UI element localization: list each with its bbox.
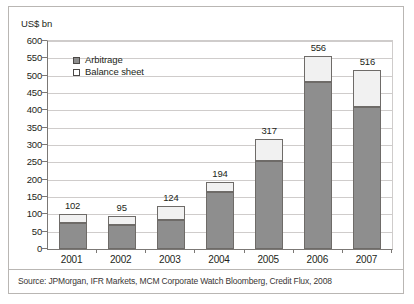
y-axis-tick-mark — [42, 161, 47, 162]
y-axis-tick-label: 550 — [27, 52, 42, 63]
legend-swatch-balance-sheet-icon — [73, 69, 80, 76]
gridline — [48, 93, 392, 94]
y-axis-tick-mark — [42, 196, 47, 197]
x-axis-tick-label: 2002 — [110, 254, 131, 265]
y-axis-tick-mark — [42, 92, 47, 93]
legend-swatch-arbitrage-icon — [73, 57, 80, 64]
bar-segment-balance-sheet[interactable] — [353, 70, 381, 106]
x-axis-tick-label: 2001 — [61, 254, 82, 265]
legend-item-balance-sheet: Balance sheet — [73, 66, 144, 78]
y-axis-tick-label: 150 — [27, 191, 42, 202]
legend-label-balance-sheet: Balance sheet — [85, 66, 144, 78]
y-axis-tick-label: 350 — [27, 121, 42, 132]
x-axis-tick-labels: 2001200220032004200520062007 — [47, 254, 393, 268]
x-axis-tick-mark — [342, 249, 343, 253]
gridline — [48, 110, 392, 111]
x-axis-tick-label: 2007 — [356, 254, 377, 265]
y-axis-tick-mark — [42, 127, 47, 128]
y-axis-tick-mark — [42, 231, 47, 232]
chart-legend: Arbitrage Balance sheet — [73, 54, 144, 78]
bar-total-label: 124 — [163, 192, 178, 203]
gridline — [48, 41, 392, 42]
bar-segment-balance-sheet[interactable] — [206, 182, 234, 192]
y-axis-tick-label: 500 — [27, 69, 42, 80]
x-axis-tick-label: 2003 — [159, 254, 180, 265]
x-axis-tick-label: 2006 — [307, 254, 328, 265]
x-axis-tick-mark — [96, 249, 97, 253]
y-axis-tick-labels: 600550500450400350300250200150100500 — [15, 40, 42, 248]
bar-segment-balance-sheet[interactable] — [108, 216, 136, 225]
bar-segment-balance-sheet[interactable] — [157, 206, 185, 220]
gridline — [48, 162, 392, 163]
bar-segment-arbitrage[interactable] — [255, 161, 283, 249]
bar-segment-arbitrage[interactable] — [353, 107, 381, 249]
y-axis-tick-label: 200 — [27, 173, 42, 184]
y-axis-tick-label: 400 — [27, 104, 42, 115]
x-axis-tick-mark — [194, 249, 195, 253]
source-note: Source: JPMorgan, IFR Markets, MCM Corpo… — [18, 276, 332, 286]
bar-segment-balance-sheet[interactable] — [304, 56, 332, 81]
y-axis-tick-label: 250 — [27, 156, 42, 167]
x-axis-tick-mark — [244, 249, 245, 253]
gridline — [48, 128, 392, 129]
bar-segment-balance-sheet[interactable] — [255, 139, 283, 160]
legend-item-arbitrage: Arbitrage — [73, 54, 144, 66]
bar-segment-arbitrage[interactable] — [157, 220, 185, 249]
y-axis-tick-mark — [42, 179, 47, 180]
bar-segment-arbitrage[interactable] — [304, 82, 332, 249]
bar-total-label: 516 — [360, 56, 375, 67]
y-axis-tick-mark — [42, 213, 47, 214]
bar-total-label: 194 — [212, 168, 227, 179]
y-axis-tick-mark — [42, 248, 47, 249]
gridline — [48, 180, 392, 181]
y-axis-tick-label: 300 — [27, 139, 42, 150]
y-axis-tick-mark — [42, 57, 47, 58]
y-axis-tick-mark — [42, 75, 47, 76]
y-axis-tick-mark — [42, 40, 47, 41]
x-axis-tick-mark — [391, 249, 392, 253]
bar-total-label: 556 — [311, 42, 326, 53]
x-axis-tick-mark — [293, 249, 294, 253]
y-axis-title: US$ bn — [21, 18, 52, 29]
bar-segment-arbitrage[interactable] — [59, 223, 87, 249]
x-axis-tick-label: 2004 — [208, 254, 229, 265]
x-axis-tick-label: 2005 — [257, 254, 278, 265]
y-axis-tick-label: 450 — [27, 87, 42, 98]
gridline — [48, 145, 392, 146]
bar-segment-arbitrage[interactable] — [206, 192, 234, 249]
source-divider — [9, 269, 403, 270]
bar-segment-balance-sheet[interactable] — [59, 214, 87, 223]
figure-container: US$ bn 600550500450400350300250200150100… — [8, 6, 404, 294]
bar-total-label: 95 — [117, 202, 127, 213]
bar-total-label: 317 — [262, 125, 277, 136]
y-axis-tick-label: 600 — [27, 35, 42, 46]
y-axis-tick-label: 100 — [27, 208, 42, 219]
y-axis-tick-mark — [42, 144, 47, 145]
y-axis-tick-label: 50 — [32, 225, 42, 236]
bar-segment-arbitrage[interactable] — [108, 225, 136, 249]
bar-total-label: 102 — [65, 200, 80, 211]
x-axis-tick-mark — [145, 249, 146, 253]
legend-label-arbitrage: Arbitrage — [85, 54, 123, 66]
y-axis-tick-mark — [42, 109, 47, 110]
chart-area: US$ bn 600550500450400350300250200150100… — [9, 7, 403, 265]
